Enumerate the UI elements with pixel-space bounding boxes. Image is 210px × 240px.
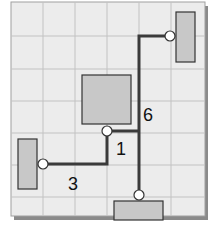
diagram-canvas: 6 1 3 xyxy=(0,0,210,240)
bottom-component xyxy=(114,201,163,220)
segment-label-1: 1 xyxy=(116,139,126,159)
top-right-node xyxy=(165,31,175,41)
left-component xyxy=(18,139,37,189)
center-component xyxy=(82,75,131,124)
segment-label-6: 6 xyxy=(143,105,153,125)
segment-label-3: 3 xyxy=(68,174,78,194)
top-right-component xyxy=(176,12,195,62)
left-node xyxy=(38,159,48,169)
bottom-node xyxy=(134,190,144,200)
center-node xyxy=(102,126,112,136)
